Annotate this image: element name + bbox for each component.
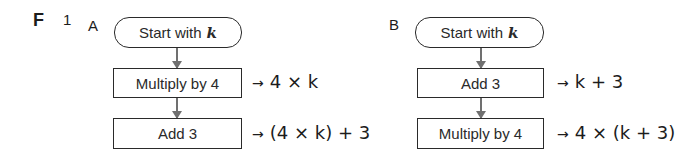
right-arrow-icon: →	[252, 75, 264, 91]
section-label: F	[33, 11, 44, 29]
start-variable: k	[508, 24, 518, 42]
arrow-down-icon	[480, 98, 482, 118]
start-variable: k	[207, 24, 217, 42]
arrow-down-icon	[176, 98, 178, 118]
flowchart-label: A	[88, 18, 98, 33]
result-expression: (4 × k) + 3	[270, 122, 370, 143]
process-box: Add 3	[417, 68, 544, 98]
process-box: Multiply by 4	[417, 118, 544, 149]
start-text: Start with	[441, 24, 504, 41]
step-text: Add 3	[158, 125, 197, 142]
right-arrow-icon: →	[252, 126, 264, 142]
result-expression: 4 × (k + 3)	[575, 122, 675, 143]
arrow-down-icon	[176, 48, 178, 68]
start-terminator: Start with k	[114, 17, 242, 48]
step-text: Add 3	[461, 75, 500, 92]
result-expression: 4 × k	[270, 71, 318, 92]
question-number: 1	[63, 12, 71, 27]
process-box: Add 3	[113, 118, 242, 149]
result-expression: k + 3	[575, 71, 623, 92]
flowchart-label: B	[389, 17, 399, 32]
arrow-down-icon	[480, 48, 482, 68]
step-text: Multiply by 4	[136, 75, 219, 92]
right-arrow-icon: →	[557, 126, 569, 142]
step-result: →4 × k	[252, 72, 318, 93]
start-text: Start with	[139, 24, 202, 41]
start-terminator: Start with k	[415, 17, 544, 48]
step-result: →4 × (k + 3)	[557, 123, 675, 144]
right-arrow-icon: →	[557, 75, 569, 91]
step-result: →(4 × k) + 3	[252, 123, 370, 144]
step-text: Multiply by 4	[439, 125, 522, 142]
process-box: Multiply by 4	[113, 68, 242, 98]
step-result: →k + 3	[557, 72, 623, 93]
